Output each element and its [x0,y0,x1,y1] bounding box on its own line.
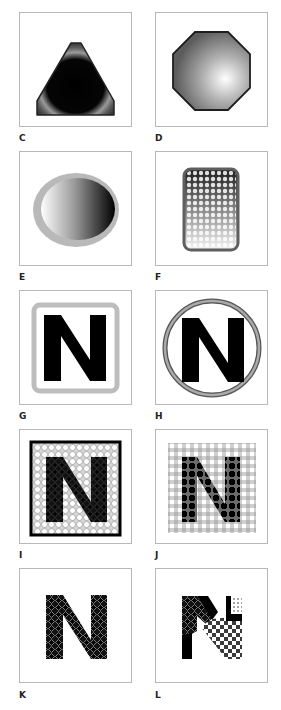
label-f: F [155,272,161,282]
letter-n-diamond-pattern [20,569,131,682]
label-j: J [155,550,158,560]
octagon-shape [156,13,267,126]
label-c: C [19,133,26,143]
label-k: K [19,690,26,700]
triangle-shape [20,13,131,126]
label-i: I [19,550,22,560]
label-l: L [155,690,161,700]
panel-f [155,151,268,266]
ellipse-shape [20,152,131,265]
label-d: D [155,133,162,143]
panel-c [19,12,132,127]
label-g: G [19,411,26,421]
letter-n-rounded-square [20,291,131,404]
letter-n-mixed-pattern [156,569,267,682]
letter-n-grid-pattern [156,430,267,543]
panel-d [155,12,268,127]
panel-i [19,429,132,544]
panel-e [19,151,132,266]
panel-l [155,568,268,683]
panel-h [155,290,268,405]
panel-j [155,429,268,544]
label-e: E [19,272,25,282]
halftone-card-shape [156,152,267,265]
letter-n-circle [156,291,267,404]
panel-g [19,290,132,405]
label-h: H [155,411,163,421]
panel-k [19,568,132,683]
letter-n-circle-pattern [20,430,131,543]
